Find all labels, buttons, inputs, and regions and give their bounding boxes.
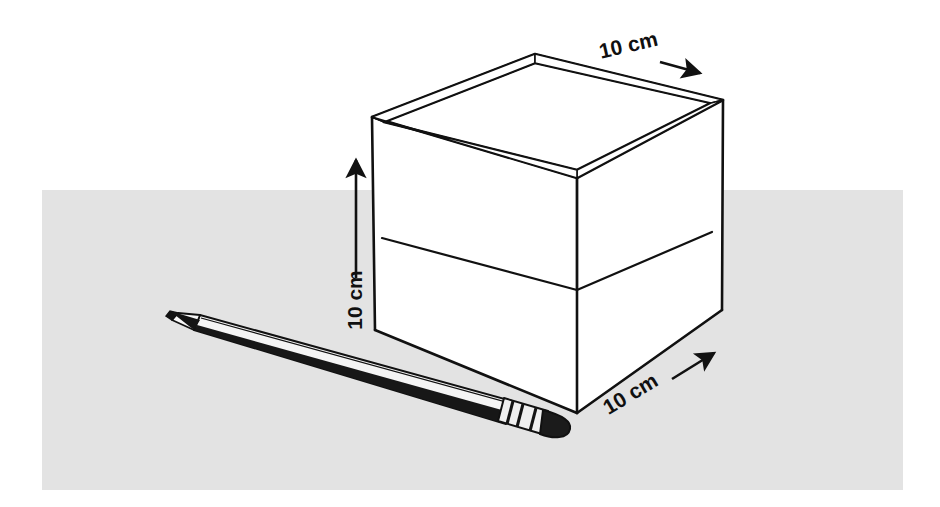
dimension-text-left: 10 cm xyxy=(343,270,366,330)
illustration-canvas: 10 cm 10 cm 10 cm xyxy=(0,0,940,507)
cube-illustration-svg: 10 cm 10 cm 10 cm xyxy=(0,0,940,507)
